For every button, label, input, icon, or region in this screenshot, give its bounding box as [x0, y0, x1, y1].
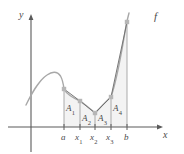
tick-label-x2: x2 — [90, 133, 97, 144]
area-label-A1: A1 — [66, 104, 75, 115]
node-marker-a — [62, 87, 66, 91]
node-marker-x3 — [109, 95, 113, 99]
tick-label-x3: x3 — [106, 133, 113, 144]
node-marker-x1 — [78, 99, 82, 103]
tick-label-x1: x1 — [75, 133, 82, 144]
area-label-A4: A4 — [113, 104, 122, 115]
plot-canvas — [0, 0, 184, 154]
y-axis-label: y — [19, 10, 23, 20]
area-label-A3: A3 — [98, 114, 107, 125]
tick-label-b: b — [124, 133, 129, 144]
tick-label-a: a — [61, 133, 66, 144]
node-marker-b — [125, 20, 129, 24]
node-marker-x2 — [93, 111, 97, 115]
x-axis-label: x — [163, 130, 167, 140]
y-axis-arrowhead — [29, 14, 34, 20]
area-label-A2: A2 — [82, 114, 91, 125]
function-label-f: f — [154, 11, 157, 22]
arc-length-figure: y x f a x1 x2 x3 b A1 A2 A3 A4 — [0, 0, 184, 154]
